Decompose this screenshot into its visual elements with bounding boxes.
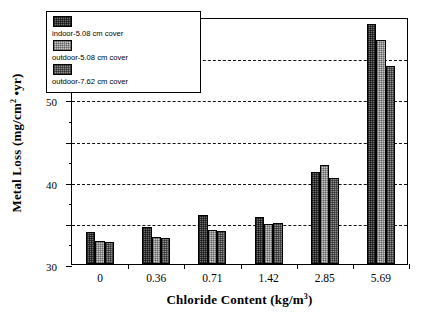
y-axis-tick: 20 (66, 184, 72, 185)
bar (273, 223, 282, 264)
bar (311, 172, 320, 264)
y-axis-minor-tick (69, 245, 73, 246)
y-gridline (72, 101, 407, 102)
x-axis-tick-label: 1.42 (259, 272, 279, 284)
x-axis-tick (353, 264, 354, 269)
bar (386, 66, 395, 264)
y-axis-title-base: Metal Loss (mg/cm (9, 103, 24, 213)
y-axis-title-tail: •yr) (9, 73, 24, 98)
y-axis-title: Metal Loss (mg/cm2 •yr) (9, 73, 25, 212)
legend-label: outdoor-7.62 cm cover (52, 76, 195, 87)
y-axis-tick: 30 (66, 143, 72, 144)
y-axis-minor-tick (69, 163, 73, 164)
chart-figure: Metal Loss (mg/cm2 •yr) 010203040506000.… (0, 0, 422, 321)
x-axis-tick (297, 264, 298, 269)
bar (208, 230, 217, 264)
x-axis-tick (409, 264, 410, 269)
bar (329, 178, 338, 264)
x-axis-title-tail: ) (308, 292, 313, 307)
x-axis-title-base: Chloride Content (kg/m (166, 292, 303, 307)
y-axis-title-superscript: 2 (9, 98, 18, 102)
x-axis-tick-label: 0.36 (146, 272, 166, 284)
bar (217, 231, 226, 264)
bar (320, 165, 329, 264)
x-axis-tick (241, 264, 242, 269)
x-axis-tick (184, 264, 185, 269)
x-axis-tick (128, 264, 129, 269)
y-gridline (72, 184, 407, 185)
bar (152, 237, 161, 264)
bar (255, 217, 264, 264)
y-axis-tick: 10 (66, 225, 72, 226)
legend-label: outdoor-5.08 cm cover (52, 52, 195, 63)
y-axis-minor-tick (69, 204, 73, 205)
bar (86, 232, 95, 264)
y-gridline (72, 225, 407, 226)
x-axis-tick-label: 0.71 (202, 272, 222, 284)
legend-swatch (53, 64, 72, 75)
legend-swatch (53, 16, 72, 27)
bar (95, 241, 104, 264)
y-axis-tick: 0 (66, 266, 72, 267)
y-axis-tick-label: 30 (46, 261, 57, 273)
bar (142, 227, 151, 264)
legend-item: indoor-5.08 cm cover (52, 16, 195, 39)
x-axis-tick-label: 5.69 (371, 272, 391, 284)
x-axis-tick-label: 0 (97, 272, 103, 284)
x-axis-title: Chloride Content (kg/m3) (71, 292, 408, 308)
legend-swatch (53, 40, 72, 51)
y-axis-tick: 40 (66, 101, 72, 102)
legend-item: outdoor-7.62 cm cover (52, 64, 195, 87)
y-axis-tick-label: 40 (46, 179, 57, 191)
y-axis-tick-label: 50 (46, 96, 57, 108)
bar (198, 215, 207, 264)
legend-item: outdoor-5.08 cm cover (52, 40, 195, 63)
bar (105, 242, 114, 264)
chart-legend: indoor-5.08 cm coveroutdoor-5.08 cm cove… (46, 11, 201, 93)
legend-label: indoor-5.08 cm cover (52, 28, 195, 39)
x-axis-tick-label: 2.85 (315, 272, 335, 284)
y-axis-title-container: Metal Loss (mg/cm2 •yr) (0, 0, 34, 285)
bar (367, 24, 376, 264)
bar (161, 238, 170, 264)
y-axis-minor-tick (69, 122, 73, 123)
bar (264, 224, 273, 264)
y-gridline (72, 143, 407, 144)
bar (376, 40, 385, 264)
